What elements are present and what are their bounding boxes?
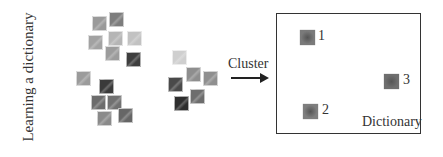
dictionary-atom-number: 3	[403, 72, 410, 88]
image-patch	[108, 31, 123, 46]
learning-a-dictionary-label: Learning a dictionary	[20, 12, 37, 141]
image-patch	[76, 71, 91, 86]
image-patch	[92, 16, 107, 31]
dictionary-atom-3	[384, 74, 399, 89]
image-patch	[203, 71, 218, 86]
image-patch	[174, 96, 189, 111]
image-patch	[190, 89, 205, 104]
image-patch	[97, 111, 112, 126]
arrow-right-icon	[260, 73, 269, 83]
dictionary-atom-number: 1	[318, 28, 325, 44]
image-patch	[126, 52, 141, 67]
dictionary-atom-1	[300, 30, 315, 45]
dictionary-atom-number: 2	[322, 102, 329, 118]
image-patch	[127, 31, 142, 46]
dictionary-label: Dictionary	[362, 114, 422, 130]
image-patch	[186, 67, 201, 82]
image-patch	[88, 35, 103, 50]
image-patch	[105, 46, 120, 61]
dictionary-box: 123 Dictionary	[276, 13, 421, 134]
image-patch	[91, 95, 106, 110]
image-patch	[172, 50, 187, 65]
cluster-arrow-shaft	[231, 77, 262, 79]
image-patch	[109, 12, 124, 27]
image-patch	[99, 79, 114, 94]
dictionary-atom-2	[303, 104, 318, 119]
image-patch	[168, 77, 183, 92]
cluster-label: Cluster	[228, 56, 268, 72]
image-patch	[118, 108, 133, 123]
